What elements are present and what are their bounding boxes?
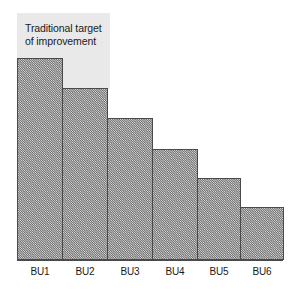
plot-area: Traditional target of improvement BU1 BU… [0, 0, 300, 295]
bar-chart-figure: Traditional target of improvement BU1 BU… [0, 0, 300, 295]
x-tick-label-bu4: BU4 [152, 266, 198, 277]
bar-bu5 [197, 178, 241, 260]
bar-bu6 [240, 207, 284, 260]
x-tick-label-bu2: BU2 [62, 266, 108, 277]
traditional-target-callout-label: Traditional target of improvement [25, 22, 107, 48]
bar-bu2 [62, 88, 108, 260]
x-tick-label-bu3: BU3 [107, 266, 153, 277]
x-axis-baseline [17, 259, 283, 261]
bar-bu1 [17, 58, 63, 260]
x-tick-label-bu5: BU5 [197, 266, 241, 277]
bar-bu4 [152, 149, 198, 260]
x-tick-label-bu1: BU1 [17, 266, 63, 277]
x-tick-label-bu6: BU6 [240, 266, 284, 277]
bar-bu3 [107, 118, 153, 260]
